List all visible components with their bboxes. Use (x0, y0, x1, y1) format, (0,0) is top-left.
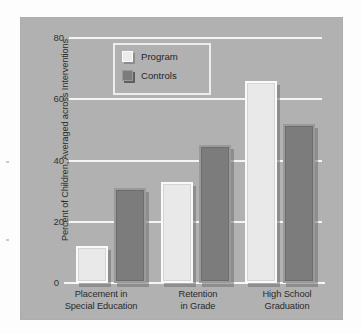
chart-panel: Percent of Children, Averaged across Int… (20, 17, 343, 320)
bar-controls-0 (114, 188, 146, 283)
x-axis-category-0: Placement in Special Education (46, 289, 156, 312)
y-axis-tick-label: 20 (53, 215, 64, 226)
bar-body (199, 145, 231, 283)
x-category-line: Placement in (46, 289, 156, 301)
bar-body (245, 81, 277, 283)
gridline: 60 (69, 98, 322, 100)
x-axis-category-1: Retention in Grade (151, 289, 245, 312)
gridline: 80 (69, 37, 322, 39)
y-axis-tick-label: 0 (54, 277, 59, 288)
bar-program-2 (245, 81, 277, 283)
bar-controls-1 (199, 145, 231, 283)
chart-figure: Percent of Children, Averaged across Int… (0, 0, 361, 334)
scan-artifact (6, 161, 9, 163)
scan-artifact (6, 239, 9, 241)
x-category-line: Special Education (46, 301, 156, 313)
bar-program-1 (161, 182, 193, 283)
bar-body (76, 246, 108, 283)
bar-body (161, 182, 193, 283)
y-axis-tick-label: 60 (53, 93, 64, 104)
x-category-line: Graduation (239, 301, 335, 313)
y-axis-tick-label: 40 (53, 154, 64, 165)
legend-label: Controls (141, 69, 177, 82)
program-swatch-icon (122, 51, 133, 62)
x-category-line: in Grade (151, 301, 245, 313)
x-category-line: Retention (151, 289, 245, 301)
y-axis-tick-label: 80 (53, 32, 64, 43)
controls-swatch-icon (122, 70, 133, 81)
legend-label: Program (141, 50, 178, 63)
bar-program-0 (76, 246, 108, 283)
bar-body (114, 188, 146, 283)
chart-legend: Program Controls (113, 43, 211, 95)
x-axis-category-2: High School Graduation (239, 289, 335, 312)
bar-controls-2 (283, 124, 315, 283)
bar-body (283, 124, 315, 283)
x-category-line: High School (239, 289, 335, 301)
